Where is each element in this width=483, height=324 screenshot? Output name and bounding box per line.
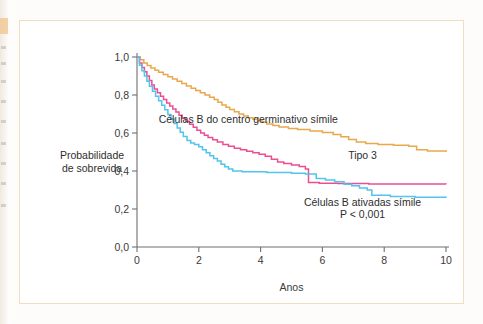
chart-annotation-2: Tipo 3	[348, 149, 377, 161]
x-tick-label: 6	[319, 254, 325, 266]
x-tick-label: 10	[440, 254, 452, 266]
y-tick-label: 0,6	[114, 127, 129, 139]
scan-edge-notch	[1, 204, 6, 207]
x-tick-label: 0	[134, 254, 140, 266]
survival-curve-chart: 0,00,20,40,60,81,00246810Anos Células B …	[20, 21, 463, 303]
scan-page-edge	[0, 0, 10, 324]
scan-edge-notch	[1, 162, 6, 165]
series-layer	[137, 57, 446, 198]
scan-edge-notch	[1, 142, 6, 145]
chart-annotation-3: Células B ativadas símile	[304, 196, 421, 208]
x-tick-label: 2	[196, 254, 202, 266]
x-tick-label: 4	[258, 254, 264, 266]
figure-frame: Probabilidade de sobrevida 0,00,20,40,60…	[19, 20, 464, 304]
series-line-3	[137, 57, 446, 198]
figure-page: Probabilidade de sobrevida 0,00,20,40,60…	[0, 0, 483, 324]
scan-edge-notch	[1, 46, 6, 49]
chart-annotation-4: P < 0,001	[340, 208, 385, 220]
scan-edge-notch	[1, 182, 6, 185]
y-tick-label: 0,2	[114, 203, 129, 215]
scan-edge-marker	[0, 18, 8, 34]
y-tick-label: 1,0	[114, 51, 129, 63]
chart-annotation-1: Células B do centro germinativo símile	[159, 113, 338, 125]
y-tick-label: 0,4	[114, 165, 129, 177]
scan-edge-notch	[1, 120, 6, 123]
series-line-1	[137, 57, 446, 152]
scan-edge-notch	[1, 62, 6, 65]
x-axis-title: Anos	[280, 281, 304, 293]
y-tick-label: 0,8	[114, 89, 129, 101]
scan-edge-notch	[1, 100, 6, 103]
scan-edge-notch	[1, 80, 6, 83]
x-tick-label: 8	[381, 254, 387, 266]
y-tick-label: 0,0	[114, 241, 129, 253]
